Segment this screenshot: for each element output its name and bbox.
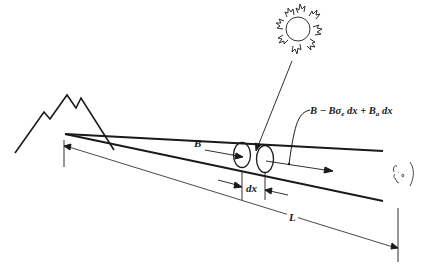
sun-icon: [276, 4, 322, 54]
mountain-icon: [15, 95, 114, 153]
equation-part: B − Bσ: [310, 105, 341, 116]
l-dimension: [64, 140, 398, 262]
equation-part: dx + B: [344, 105, 375, 116]
slab-thickness-label: dx: [246, 183, 257, 194]
sun-ray-arrow: [256, 61, 293, 151]
incoming-brightness-label: B: [194, 138, 201, 149]
path-length-label: L: [287, 212, 298, 223]
disc-icon: [257, 146, 274, 173]
observer-face-icon: [393, 162, 413, 186]
visibility-diagram: [0, 0, 439, 278]
equation-part: dx: [379, 105, 392, 116]
incoming-brightness-arrow: [205, 150, 243, 159]
sight-path-lower-line: [65, 134, 383, 201]
outgoing-brightness-equation: B − Bσe dx + Ba dx: [310, 106, 392, 118]
equation-leader-line: [289, 110, 310, 164]
outgoing-brightness-arrow: [266, 161, 333, 173]
